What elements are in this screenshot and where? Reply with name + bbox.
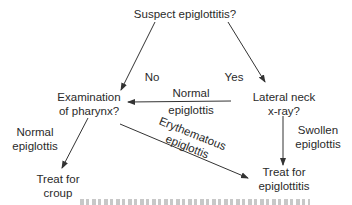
node-lateral-neck-xray: Lateral neck x-ray?: [253, 90, 316, 118]
node-treat-for-croup: Treat for croup: [36, 172, 79, 200]
cropped-caption-fragment: [80, 199, 310, 205]
node-text: Suspect epiglottitis?: [134, 7, 236, 21]
edge-label-yes: Yes: [225, 70, 244, 84]
edge-label-xray-normal: Normal epiglottis: [168, 86, 213, 117]
edge-label-no: No: [145, 70, 160, 84]
node-treat-for-epiglottitis: Treat for epiglottitis: [258, 165, 309, 193]
edge-label-swollen: Swollen epiglottis: [295, 123, 340, 151]
edge-label-exam-normal: Normal epiglottis: [12, 125, 57, 153]
node-suspect-epiglottitis: Suspect epiglottitis?: [134, 7, 236, 21]
node-examination-of-pharynx: Examination of pharynx?: [57, 90, 120, 118]
arrow-exam-normal: [62, 118, 88, 168]
